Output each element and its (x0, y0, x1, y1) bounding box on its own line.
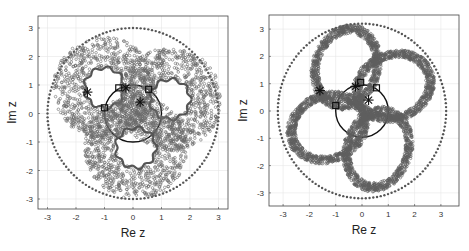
y-tick-label: -2 (26, 167, 34, 176)
x-tick-label: 0 (131, 213, 136, 222)
plot-1: -3-2-101233210-1-2-3Re zIm z (5, 16, 228, 240)
asterisk-marker (315, 86, 325, 96)
asterisk-marker (350, 81, 360, 91)
x-tick-label: 0 (360, 210, 365, 219)
y-tick-label: 0 (29, 110, 34, 119)
y-tick-label: 2 (260, 52, 265, 61)
x-tick-label: -3 (280, 210, 288, 219)
asterisk-marker (364, 95, 374, 105)
y-tick-label: -2 (257, 162, 265, 171)
x-tick-label: -3 (44, 213, 52, 222)
y-tick-label: -3 (26, 195, 34, 204)
y-axis-label: Im z (5, 101, 19, 124)
y-tick-label: 0 (260, 107, 265, 116)
x-tick-label: -1 (332, 210, 340, 219)
x-tick-label: 2 (412, 210, 417, 219)
figure: -3-2-101233210-1-2-3Re zIm z-3-2-1012332… (0, 0, 469, 251)
x-tick-label: -2 (306, 210, 314, 219)
y-tick-label: 3 (29, 24, 34, 33)
y-tick-label: 1 (260, 80, 265, 89)
x-tick-label: 2 (188, 213, 193, 222)
asterisk-marker (82, 87, 92, 97)
y-tick-label: 1 (29, 81, 34, 90)
x-tick-label: 3 (216, 213, 221, 222)
y-tick-label: -1 (26, 138, 34, 147)
y-axis-label: Im z (236, 99, 250, 122)
y-tick-label: 3 (260, 25, 265, 34)
x-axis-label: Re z (121, 226, 146, 240)
plot-2: -3-2-101233210-1-2-3Re zIm z (236, 15, 459, 237)
y-tick-label: -1 (257, 134, 265, 143)
x-tick-label: 3 (439, 210, 444, 219)
asterisk-marker (121, 83, 131, 93)
x-axis-label: Re z (352, 223, 377, 237)
x-tick-label: 1 (386, 210, 391, 219)
x-tick-label: 1 (159, 213, 164, 222)
x-tick-label: -2 (72, 213, 80, 222)
y-tick-label: 2 (29, 53, 34, 62)
asterisk-marker (135, 97, 145, 107)
y-tick-label: -3 (257, 189, 265, 198)
x-tick-label: -1 (101, 213, 109, 222)
